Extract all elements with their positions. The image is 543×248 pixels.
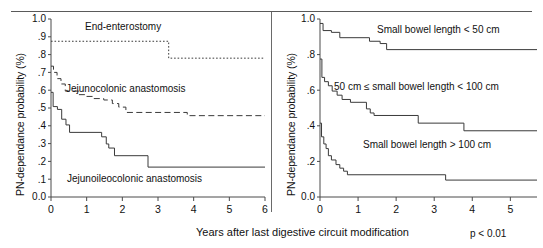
y-tick-label: .6 <box>38 85 47 96</box>
y-tick-label: .4 <box>38 120 47 131</box>
y-tick-label: .7 <box>38 67 47 78</box>
axis-spine <box>320 19 537 197</box>
x-tick-label: 5 <box>226 203 232 215</box>
survival-curve <box>320 123 537 180</box>
axis-spine <box>51 19 265 197</box>
x-tick-label: 3 <box>155 203 161 215</box>
x-tick-label: 1 <box>355 203 361 215</box>
y-tick-label: 0.0 <box>32 191 46 202</box>
y-tick-label: .9 <box>38 31 47 42</box>
x-tick-label: 5 <box>507 203 513 215</box>
y-tick-label: 0.0 <box>301 191 315 202</box>
y-tick-label: .8 <box>307 49 316 60</box>
y-tick-label: .8 <box>38 49 47 60</box>
y-tick-label: .1 <box>38 174 47 185</box>
survival-curve <box>320 59 537 131</box>
curve-label: Jejunocolonic anastomosis <box>66 83 186 94</box>
x-tick-label: 4 <box>191 203 197 215</box>
y-tick-label: 1.0 <box>301 13 315 24</box>
curve-label: 50 cm ≤ small bowel length < 100 cm <box>334 81 499 92</box>
y-tick-label: 1.0 <box>32 13 46 24</box>
curve-label: Small bowel length < 50 cm <box>377 24 500 35</box>
panel-left: PN-dependance probability (%) 0.0.1.2.3.… <box>0 0 271 248</box>
y-tick-label: .6 <box>307 85 316 96</box>
curve-label: End-enterostomy <box>85 21 161 32</box>
y-tick-label: .5 <box>38 102 47 113</box>
p-value-annotation: p < 0.01 <box>470 228 506 239</box>
x-tick-label: 0 <box>48 203 54 215</box>
x-tick-label: 6 <box>262 203 268 215</box>
x-tick-label: 0 <box>317 203 323 215</box>
plot-area-right: 0.0.2.4.6.81.0012345Small bowel length <… <box>271 0 543 248</box>
y-tick-label: .2 <box>38 156 47 167</box>
x-tick-label: 3 <box>431 203 437 215</box>
kaplan-meier-figure: PN-dependance probability (%) 0.0.1.2.3.… <box>0 0 543 248</box>
x-tick-label: 4 <box>469 203 475 215</box>
survival-curve <box>51 92 265 167</box>
x-axis-title: Years after last digestive circuit modif… <box>196 226 409 238</box>
y-tick-label: .2 <box>307 156 316 167</box>
curve-label: Small bowel length > 100 cm <box>363 139 491 150</box>
y-tick-label: .3 <box>38 138 47 149</box>
x-tick-label: 2 <box>119 203 125 215</box>
y-tick-label: .4 <box>307 120 316 131</box>
curve-label: Jejunoileocolonic anastomosis <box>67 173 202 184</box>
panel-right: PN-dependance probability (%) 0.0.2.4.6.… <box>271 0 542 248</box>
x-tick-label: 2 <box>393 203 399 215</box>
survival-curve <box>51 41 265 58</box>
plot-area-left: 0.0.1.2.3.4.5.6.7.8.91.00123456End-enter… <box>0 0 271 248</box>
x-tick-label: 1 <box>84 203 90 215</box>
